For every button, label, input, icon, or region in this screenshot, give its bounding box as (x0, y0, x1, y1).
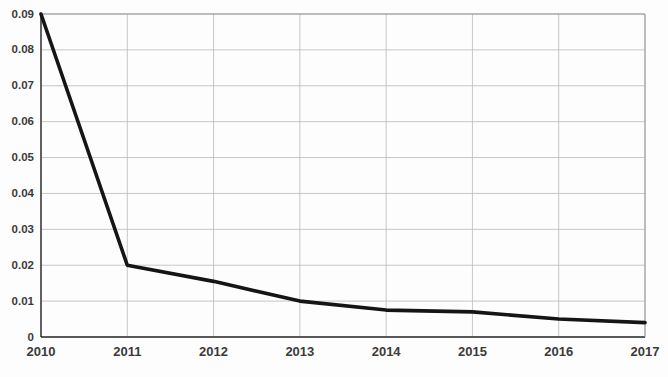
y-tick-label: 0.07 (12, 79, 34, 91)
y-tick-label: 0.06 (12, 115, 34, 127)
data-series (41, 14, 645, 323)
series-line-series-1 (41, 14, 645, 323)
x-tick-label: 2014 (372, 344, 402, 359)
x-tick-label: 2011 (113, 344, 141, 359)
x-tick-label: 2015 (458, 344, 487, 359)
y-tick-label: 0.01 (12, 295, 35, 307)
x-axis-tick-labels: 20102011201220132014201520162017 (27, 344, 660, 359)
x-tick-label: 2013 (285, 344, 314, 359)
horizontal-gridlines (41, 14, 645, 337)
x-tick-label: 2010 (27, 344, 56, 359)
y-tick-label: 0.08 (12, 43, 35, 55)
y-tick-label: 0.09 (12, 8, 34, 20)
vertical-gridlines (41, 14, 645, 337)
x-tick-label: 2012 (199, 344, 228, 359)
y-tick-label: 0.02 (12, 259, 34, 271)
y-axis-tick-labels: 0.090.080.070.060.050.040.030.020.010 (12, 8, 35, 343)
y-tick-label: 0.03 (12, 223, 34, 235)
x-tick-label: 2017 (631, 344, 660, 359)
chart-canvas: 0.090.080.070.060.050.040.030.020.010 20… (0, 0, 668, 377)
x-tick-label: 2016 (544, 344, 573, 359)
y-tick-label: 0 (28, 331, 34, 343)
line-chart: 0.090.080.070.060.050.040.030.020.010 20… (0, 0, 668, 377)
axis-lines (41, 14, 645, 337)
y-tick-label: 0.04 (12, 187, 35, 199)
y-tick-label: 0.05 (12, 151, 35, 163)
